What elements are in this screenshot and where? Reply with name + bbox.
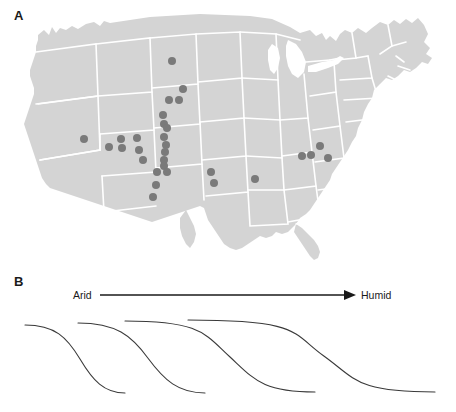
map-site-point [251,175,259,183]
curve-4-humid [188,320,435,392]
texas-south [180,210,196,248]
arrow-head-icon [344,290,356,300]
map-site-point [179,85,187,93]
map-site-point [133,134,141,142]
map-site-point [149,193,157,201]
map-site-point [117,135,125,143]
map-site-point [175,96,183,104]
panel-b-label: B [14,274,23,289]
map-site-point [207,168,215,176]
map-site-point [316,142,324,150]
map-site-point [153,168,161,176]
map-site-point [162,141,170,149]
map-site-point [165,96,173,104]
map-site-point [298,152,306,160]
response-curves-svg [0,305,456,400]
map-site-point [80,135,88,143]
us-map-svg [0,0,456,268]
map-site-point [307,151,315,159]
florida-peninsula [294,224,320,260]
curve-1-arid [25,325,125,393]
map-site-point [135,146,143,154]
map-site-point [163,168,171,176]
map-site-point [324,154,332,162]
map-site-point [210,179,218,187]
figure-container: A [0,0,456,412]
map-site-point [168,57,176,65]
gradient-arrow [100,286,358,304]
map-site-point [139,156,147,164]
us-outline [24,14,432,250]
gradient-label-arid: Arid [73,289,92,301]
curve-group [25,320,435,393]
map-site-point [105,143,113,151]
map-site-point [152,181,160,189]
curve-3 [125,321,315,392]
map-site-point [160,133,168,141]
gradient-label-humid: Humid [361,289,391,301]
map-site-point [118,144,126,152]
map-site-point [161,148,169,156]
map-site-point [163,124,171,132]
map-site-point [159,111,167,119]
panel-a-map: A [0,0,456,268]
caption-clipped-row [0,400,456,412]
